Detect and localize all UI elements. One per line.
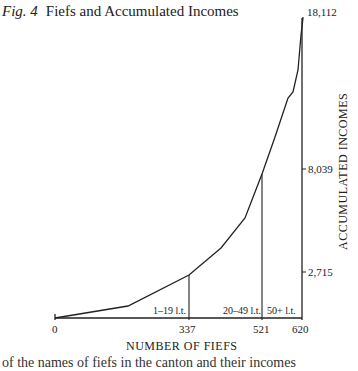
segment-label-3: 50+ l.t. xyxy=(267,305,296,316)
y-axis-title: ACCUMULATED INCOMES xyxy=(336,93,350,250)
x-tick-521: 521 xyxy=(253,323,270,335)
x-tick-0: 0 xyxy=(52,323,58,335)
x-tick-620: 620 xyxy=(292,323,309,335)
cropped-body-text: of the names of fiefs in the canton and … xyxy=(2,355,296,371)
y-tick-2715: 2,715 xyxy=(308,266,333,278)
x-tick-337: 337 xyxy=(179,323,196,335)
x-axis-title: NUMBER OF FIEFS xyxy=(126,339,238,353)
cumulative-curve xyxy=(55,18,303,318)
y-tick-8039: 8,039 xyxy=(308,163,333,175)
y-tick-18112: 18,112 xyxy=(307,6,337,18)
segment-label-1: 1–19 l.t. xyxy=(153,305,186,316)
segment-label-2: 20–49 l.t. xyxy=(223,305,261,316)
